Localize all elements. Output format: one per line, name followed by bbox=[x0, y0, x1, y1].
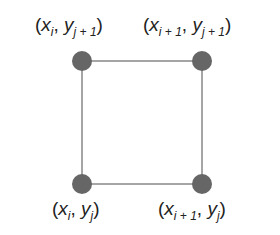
node-bottom-left bbox=[72, 174, 92, 194]
label-top-right: (xi + 1, yj + 1) bbox=[143, 14, 231, 39]
node-top-right bbox=[192, 51, 212, 71]
cell-edges bbox=[82, 61, 202, 184]
node-bottom-right bbox=[192, 174, 212, 194]
label-bottom-right: (xi + 1, yj) bbox=[158, 198, 226, 223]
label-top-left: (xi, yj + 1) bbox=[35, 14, 103, 39]
label-bottom-left: (xi, yj) bbox=[52, 198, 100, 223]
node-top-left bbox=[72, 51, 92, 71]
